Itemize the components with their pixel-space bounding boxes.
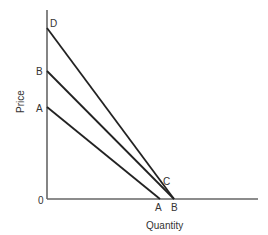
label-b-bottom: B [171, 202, 178, 213]
label-a-top: A [36, 103, 43, 114]
label-a-bottom: A [155, 202, 162, 213]
line-b [47, 71, 174, 199]
line-a [47, 107, 160, 199]
line-d [47, 28, 174, 199]
y-axis-label: Price [15, 90, 26, 113]
label-d-top: D [50, 18, 57, 29]
origin-label: 0 [38, 195, 44, 206]
x-axis-label: Quantity [146, 220, 183, 231]
price-quantity-diagram: D B A C A B 0 Quantity Price [0, 0, 268, 235]
label-c-intersection: C [163, 176, 170, 187]
label-b-top: B [36, 66, 43, 77]
